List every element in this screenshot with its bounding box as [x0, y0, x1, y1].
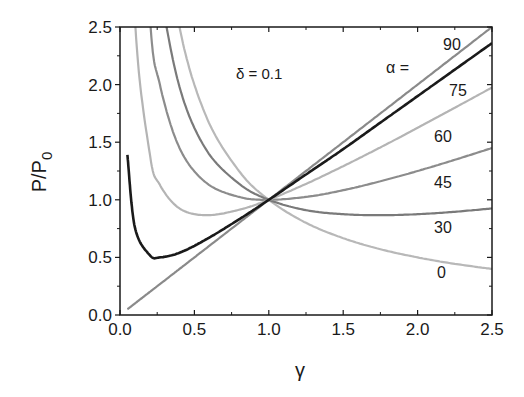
x-axis-title: γ: [295, 359, 305, 381]
series-label-45: 45: [434, 174, 452, 191]
x-tick-label: 2.0: [406, 320, 430, 339]
series-label-30: 30: [434, 219, 452, 236]
x-tick-label: 1.5: [331, 320, 355, 339]
y-axis-title: P/P0: [28, 152, 55, 193]
curves-group: [127, 0, 492, 309]
delta-annotation: δ = 0.1: [236, 65, 282, 82]
series-line-45: [127, 0, 492, 200]
y-axis-title-subscript: 0: [38, 152, 55, 160]
series-label-0: 0: [437, 264, 446, 281]
svg-text:P/P0: P/P0: [28, 152, 55, 193]
series-label-60: 60: [434, 128, 452, 145]
y-tick-label: 2.0: [88, 76, 112, 95]
alpha-header: α =: [386, 59, 409, 76]
y-tick-label: 0.0: [88, 306, 112, 325]
y-axis-title-main: P/P: [28, 160, 50, 192]
series-label-90: 90: [443, 36, 461, 53]
series-label-75: 75: [449, 82, 467, 99]
y-tick-label: 1.0: [88, 191, 112, 210]
y-tick-label: 2.5: [88, 18, 112, 37]
x-tick-label: 2.5: [480, 320, 504, 339]
x-tick-label: 1.0: [257, 320, 281, 339]
x-tick-label: 0.5: [183, 320, 207, 339]
y-tick-label: 0.5: [88, 248, 112, 267]
chart: 0.00.51.01.52.02.50.00.51.01.52.02.5 δ =…: [0, 0, 524, 397]
y-tick-label: 1.5: [88, 133, 112, 152]
